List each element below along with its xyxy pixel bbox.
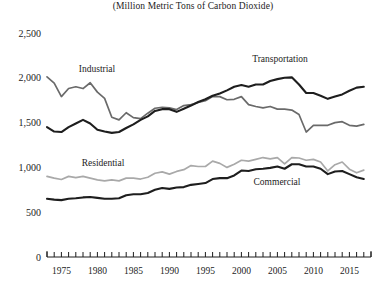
x-axis-tick-labels: 197519801985199019952000200520102015 (52, 266, 359, 276)
x-tick-label: 2010 (304, 266, 323, 276)
x-tick-label: 1985 (124, 266, 143, 276)
series-label-transportation: Transportation (252, 54, 308, 64)
series-label-industrial: Industrial (79, 64, 116, 74)
data-series-group (47, 77, 364, 200)
x-tick-label: 1980 (88, 266, 107, 276)
y-tick-label: 2,000 (19, 72, 42, 83)
y-tick-label: 1,500 (19, 117, 42, 128)
series-label-commercial: Commercial (254, 177, 301, 187)
series-line-industrial (47, 77, 364, 132)
y-tick-label: 500 (26, 207, 41, 218)
x-axis (47, 251, 371, 257)
y-tick-label: 1,000 (19, 162, 42, 173)
series-line-commercial (47, 164, 364, 200)
chart-plot-area: 05001,0001,5002,0002,500 197519801985199… (0, 0, 386, 294)
x-tick-label: 2000 (232, 266, 251, 276)
series-label-residential: Residential (82, 158, 125, 168)
y-tick-label: 2,500 (19, 28, 42, 39)
x-tick-label: 2005 (268, 266, 287, 276)
y-tick-label: 0 (36, 252, 41, 263)
y-axis-tick-labels: 05001,0001,5002,0002,500 (19, 28, 42, 263)
emissions-line-chart: (Million Metric Tons of Carbon Dioxide) … (0, 0, 386, 294)
x-tick-label: 2015 (340, 266, 359, 276)
x-tick-label: 1995 (196, 266, 215, 276)
x-tick-label: 1990 (160, 266, 179, 276)
x-tick-label: 1975 (52, 266, 71, 276)
